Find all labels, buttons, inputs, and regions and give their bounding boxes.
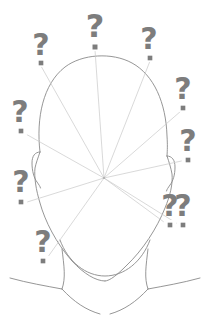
qm-left-lower-dot-square [19, 200, 24, 205]
ray-qm-top-left [41, 66, 104, 178]
qm-right-upper-dot-square [181, 106, 186, 111]
qm-bottom-right-glyph: ? [161, 188, 178, 223]
ray-qm-bottom-right [104, 178, 168, 225]
illustration-canvas: ?????????? [0, 0, 215, 323]
ray-convergence-point [103, 177, 105, 179]
ray-qm-bottom-left [45, 178, 104, 261]
ear-right [167, 156, 176, 191]
ray-qm-right-upper [104, 111, 181, 178]
neck-right [146, 249, 148, 289]
qm-top-right-glyph: ? [140, 21, 157, 56]
ray-qm-right-middle [104, 160, 186, 178]
neck-left [62, 249, 64, 289]
cranium-outline [39, 56, 167, 156]
qm-left-upper-dot-square [19, 129, 24, 134]
qm-top-left-dot-square [39, 61, 44, 66]
shoulder-right [148, 278, 200, 289]
qm-right-middle-dot-square [186, 158, 191, 163]
qm-bottom-left-dot-square [41, 259, 46, 264]
qm-left-lower-glyph: ? [12, 164, 29, 199]
ray-qm-left-lower [24, 178, 104, 203]
qm-top-center-glyph: ? [86, 7, 105, 45]
ray-qm-left-upper [24, 133, 104, 178]
ray-qm-top-center [95, 50, 104, 178]
collar-right [110, 289, 148, 314]
qm-right-lower-dot-square [181, 223, 186, 228]
ray-qm-top-right [104, 61, 150, 178]
collar-left [62, 289, 100, 314]
jaw-inner-curve [60, 240, 150, 276]
qm-top-right-dot-square [148, 56, 153, 61]
head-illustration-svg: ?????????? [0, 0, 215, 323]
qm-bottom-right-dot-square [168, 223, 173, 228]
shoulder-left [10, 278, 62, 289]
qm-right-upper-glyph: ? [174, 71, 191, 106]
qm-top-center-dot-square [93, 45, 98, 50]
qm-bottom-left-glyph: ? [34, 224, 51, 259]
head-lineart-group [10, 56, 200, 314]
qm-top-left-glyph: ? [32, 27, 49, 62]
qm-right-middle-glyph: ? [179, 123, 196, 158]
qm-left-upper-glyph: ? [11, 94, 28, 129]
ear-left [32, 152, 41, 188]
